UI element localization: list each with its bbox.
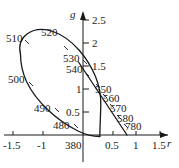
y-axis-name: g bbox=[70, 9, 76, 20]
curve-label-490: 490 bbox=[34, 103, 51, 114]
curve-label-520: 520 bbox=[41, 27, 58, 38]
y-tick-label-2: 2 bbox=[92, 38, 98, 49]
curve-label-780: 780 bbox=[125, 121, 142, 132]
y-axis-arrow bbox=[80, 11, 86, 20]
curve-label-480: 480 bbox=[53, 120, 70, 131]
curve-label-500: 500 bbox=[8, 74, 25, 85]
x-tick-label-neg1: -1 bbox=[37, 140, 46, 151]
y-tick-label-0-5: 0.5 bbox=[66, 107, 80, 118]
x-tick-label-1: 1 bbox=[133, 140, 139, 151]
figure-container: g r 2.5 2 1.5 1 0.5 -1.5 -1 0.5 1 1.5 51… bbox=[0, 0, 179, 168]
curve-label-540: 540 bbox=[66, 64, 83, 75]
x-tick-label-0-5: 0.5 bbox=[105, 140, 119, 151]
x-tick-label-1-5: 1.5 bbox=[152, 140, 166, 151]
y-tick-marks bbox=[83, 20, 89, 112]
y-tick-label-1: 1 bbox=[76, 84, 82, 95]
x-tick-label-neg1-5: -1.5 bbox=[3, 140, 20, 151]
curve-label-380: 380 bbox=[65, 140, 82, 151]
curve-label-510: 510 bbox=[6, 33, 23, 44]
x-axis-name: r bbox=[167, 138, 171, 149]
y-tick-label-2-5: 2.5 bbox=[92, 15, 106, 26]
y-tick-label-1-5: 1.5 bbox=[92, 61, 106, 72]
